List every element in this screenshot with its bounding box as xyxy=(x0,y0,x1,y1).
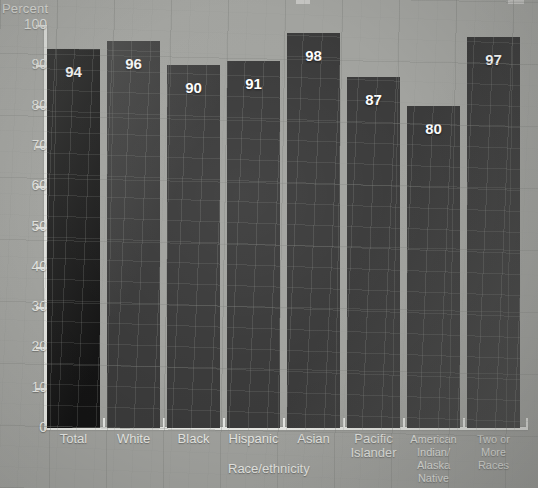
x-axis-category-line: Native xyxy=(401,472,466,485)
bar-value-label: 96 xyxy=(107,55,160,72)
y-axis-tick-mark xyxy=(36,186,47,188)
x-axis-end-tick xyxy=(526,418,528,428)
y-axis-tick-label: 90 xyxy=(13,56,47,72)
x-axis-tick-mark xyxy=(343,418,345,428)
bar: 90 xyxy=(167,65,220,428)
x-axis-category-label: White xyxy=(101,432,166,446)
y-axis-tick-mark xyxy=(36,65,47,67)
bar: 80 xyxy=(407,106,460,428)
x-axis-category-line: American xyxy=(401,433,466,446)
x-axis-category-line: Asian xyxy=(281,432,346,446)
x-axis-category-line: Indian/ xyxy=(401,446,466,459)
x-axis-category-line: Pacific xyxy=(341,432,406,446)
x-axis-category-label: AmericanIndian/AlaskaNative xyxy=(401,433,466,485)
bar-value-label: 87 xyxy=(347,91,400,108)
y-axis-tick-label: 10 xyxy=(13,379,47,395)
bar-value-label: 98 xyxy=(287,47,340,64)
y-axis-tick-label: 80 xyxy=(13,97,47,113)
x-axis-category-line: Hispanic xyxy=(221,432,286,446)
x-axis-category-label: Total xyxy=(41,432,106,446)
bar-value-label: 80 xyxy=(407,120,460,137)
x-axis-category-label: PacificIslander xyxy=(341,432,406,460)
y-axis-tick-mark xyxy=(36,25,47,27)
x-axis-category-line: Total xyxy=(41,432,106,446)
bar: 96 xyxy=(107,41,160,428)
x-axis-category-label: Two orMoreRaces xyxy=(461,433,526,472)
x-axis-category-line: Races xyxy=(461,459,526,472)
chart-screenshot: Percent 1009080706050403020100 949690919… xyxy=(0,0,538,488)
y-axis-tick-label: 50 xyxy=(13,218,47,234)
y-axis-title: Percent xyxy=(2,1,48,16)
y-axis-tick-label: 30 xyxy=(13,298,47,314)
x-axis-tick-mark xyxy=(103,418,105,428)
x-axis-category-line: White xyxy=(101,432,166,446)
y-axis-tick-mark xyxy=(36,307,47,309)
x-axis-category-line: More xyxy=(461,446,526,459)
x-axis-category-label: Black xyxy=(161,432,226,446)
bar-value-label: 91 xyxy=(227,75,280,92)
y-axis-tick-mark xyxy=(36,227,47,229)
x-axis-category-line: Islander xyxy=(341,446,406,460)
y-axis-tick-label: 20 xyxy=(13,338,47,354)
bar-chart: Percent 1009080706050403020100 949690919… xyxy=(0,0,538,488)
y-axis-tick-mark xyxy=(36,146,47,148)
x-axis-category-label: Asian xyxy=(281,432,346,446)
y-axis-tick-mark xyxy=(36,347,47,349)
bar: 98 xyxy=(287,33,340,428)
x-axis-category-line: Two or xyxy=(461,433,526,446)
bar-value-label: 97 xyxy=(467,51,520,68)
x-axis-category-line: Alaska xyxy=(401,459,466,472)
x-axis-tick-mark xyxy=(403,418,405,428)
x-axis-tick-mark xyxy=(223,418,225,428)
x-axis-category-line: Black xyxy=(161,432,226,446)
y-axis-tick-label: 40 xyxy=(13,258,47,274)
bar: 87 xyxy=(347,77,400,428)
y-axis-tick-label: 60 xyxy=(13,177,47,193)
y-axis-tick-mark xyxy=(36,267,47,269)
bar: 94 xyxy=(47,49,100,428)
y-axis-tick-mark xyxy=(36,388,47,390)
bar: 97 xyxy=(467,37,520,428)
x-axis-tick-mark xyxy=(463,418,465,428)
x-axis-tick-mark xyxy=(163,418,165,428)
x-axis-category-label: Hispanic xyxy=(221,432,286,446)
x-axis-title: Race/ethnicity xyxy=(228,461,310,476)
y-axis-tick-mark xyxy=(36,106,47,108)
x-axis-tick-mark xyxy=(283,418,285,428)
bar: 91 xyxy=(227,61,280,428)
bar-value-label: 94 xyxy=(47,63,100,80)
y-axis-tick-label: 100 xyxy=(13,16,47,32)
y-axis-tick-label: 70 xyxy=(13,137,47,153)
bar-value-label: 90 xyxy=(167,79,220,96)
